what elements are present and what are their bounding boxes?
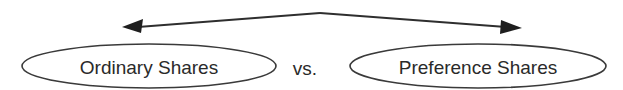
ordinary-shares-label: Ordinary Shares: [80, 58, 218, 77]
arrow-line-left: [138, 13, 320, 27]
arrowhead-right-icon: [500, 20, 522, 34]
double-headed-arrow: [122, 13, 522, 34]
versus-label: vs.: [293, 59, 317, 78]
preference-shares-label: Preference Shares: [399, 58, 557, 77]
arrow-line-right: [320, 13, 506, 27]
arrowhead-left-icon: [122, 19, 143, 33]
